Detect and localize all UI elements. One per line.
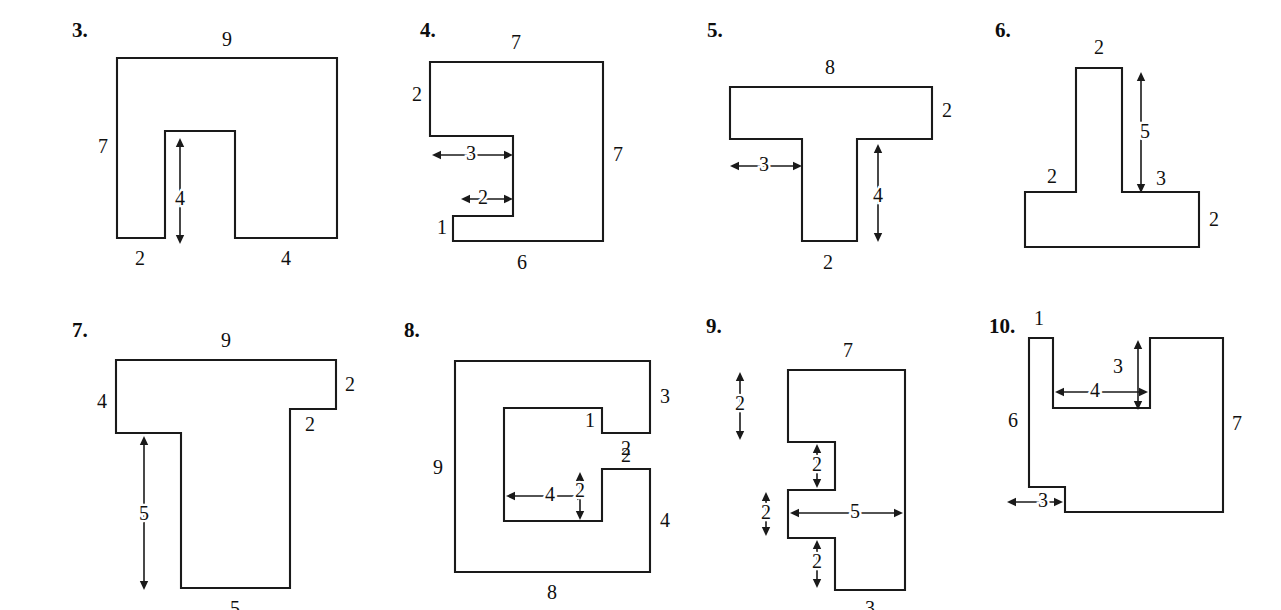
dim-top-9: 9 [222,28,232,50]
dim-top-1: 1 [1034,307,1044,329]
shape-canvas: 7222523 [700,310,990,610]
figure-8: 8.312924248 [400,310,700,610]
dim-tooth-2c: 2 [812,550,822,572]
dim-notch-top-2: 2 [621,444,631,466]
worksheet-page: 3.972444.72321765.823426.252327.9422558.… [0,0,1281,610]
shape-canvas: 942255 [60,310,390,610]
dim-notch-4: 4 [1090,379,1100,401]
dim-right-3: 3 [660,385,670,407]
dim-left-3: 3 [759,153,769,175]
dim-tooth-2b: 2 [761,501,771,523]
dim-bottom-4: 4 [281,247,291,269]
figure-10: 10.134673 [985,310,1275,610]
dim-inner-4: 4 [545,483,555,505]
problem-number: 7. [72,320,88,341]
figure-4: 4.7232176 [412,8,692,298]
dim-step-1: 1 [585,409,595,431]
dim-left-2: 2 [1047,165,1057,187]
problem-number: 6. [995,20,1011,41]
dim-left-9: 9 [433,456,443,478]
dim-notch-4: 4 [175,187,185,209]
dim-bottom-2: 2 [135,247,145,269]
shape-canvas: 312924248 [400,310,700,610]
problem-number: 8. [404,320,420,341]
dim-left-1: 1 [437,216,447,238]
problem-number: 10. [989,316,1015,337]
dim-top-7: 7 [843,339,853,361]
figure-6: 6.25232 [985,8,1275,298]
figure-7: 7.942255 [60,310,390,610]
dim-top-9: 9 [221,329,231,351]
arrow-width-5 [790,509,903,517]
dim-base-2: 2 [1209,208,1219,230]
dim-top-2: 2 [1094,36,1104,58]
dim-top-8: 8 [825,56,835,78]
dim-bottom-6: 6 [517,251,527,273]
dim-left-7: 7 [98,135,108,157]
dim-stem-5: 5 [139,502,149,524]
shape-outline [1029,338,1223,512]
dim-left-2: 2 [412,83,422,105]
arrow-notch-4 [1055,388,1148,396]
dim-tooth-2a: 2 [812,453,822,475]
shape-canvas: 97244 [60,8,390,298]
dim-inner-3: 3 [466,142,476,164]
shape-outline [116,360,336,588]
shape-outline [788,370,905,590]
dim-step-2: 2 [305,413,315,435]
dim-stem-5: 5 [1140,120,1150,142]
shape-canvas: 25232 [985,8,1275,298]
dim-right-7: 7 [613,143,623,165]
figure-9: 9.7222523 [700,310,990,610]
shape-outline [455,361,650,572]
dim-bottom-3: 3 [1038,489,1048,511]
dim-inner-2: 2 [575,479,585,501]
shape-outline [1025,68,1199,247]
problem-number: 5. [707,20,723,41]
dim-right-2: 2 [345,373,355,395]
dim-bottom-5: 5 [230,597,240,610]
dim-notch-3: 3 [1113,355,1123,377]
dim-stem-4: 4 [873,184,883,206]
dim-bottom-3: 3 [865,597,875,610]
dim-right-3: 3 [1156,167,1166,189]
problem-number: 9. [706,316,722,337]
arrow-notch-3 [1134,340,1142,410]
dim-right-2: 2 [942,99,952,121]
shape-outline [117,58,337,238]
shape-canvas: 82342 [697,8,987,298]
dim-top-7: 7 [511,31,521,53]
dim-bottom-2: 2 [823,251,833,273]
figure-5: 5.82342 [697,8,987,298]
dim-width-5: 5 [850,500,860,522]
figure-3: 3.97244 [60,8,390,298]
dim-bottom-8: 8 [547,581,557,603]
dim-left-6: 6 [1008,409,1018,431]
dim-right-4: 4 [660,509,670,531]
shape-canvas: 7232176 [412,8,692,298]
shape-canvas: 134673 [985,310,1275,610]
problem-number: 3. [72,20,88,41]
problem-number: 4. [420,20,436,41]
dim-left-4: 4 [97,390,107,412]
dim-left-2: 2 [735,392,745,414]
arrow-bottom-3 [1007,498,1063,506]
shape-outline [430,62,603,241]
dim-inner-2: 2 [478,186,488,208]
dim-right-7: 7 [1232,412,1242,434]
